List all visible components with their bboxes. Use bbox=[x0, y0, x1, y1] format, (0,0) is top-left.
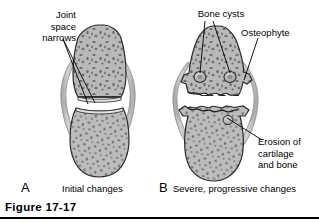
panel-a-upper-bone bbox=[73, 25, 126, 102]
panel-b-joint bbox=[173, 21, 262, 181]
annotation-osteophyte: Osteophyte bbox=[241, 27, 317, 39]
panel-a-letter: A bbox=[21, 180, 30, 195]
panel-a-joint bbox=[61, 25, 135, 177]
annotation-bone-cysts: Bone cysts bbox=[183, 8, 259, 20]
annotation-joint-space-narrows: Joint space narrows bbox=[14, 9, 76, 44]
annotation-erosion-of-cartilage-and-bone: Erosion of cartilage and bone bbox=[258, 136, 318, 171]
panel-b-letter: B bbox=[159, 180, 168, 195]
erosion-pit bbox=[223, 116, 233, 125]
figure-number-caption: Figure 17-17 bbox=[5, 201, 76, 213]
panel-b-caption: Severe, progressive changes bbox=[173, 183, 296, 194]
caption-divider-rule bbox=[0, 217, 319, 219]
panel-a-caption: Initial changes bbox=[62, 183, 123, 194]
panel-b-lower-bone bbox=[179, 106, 249, 181]
panel-a-lower-bone bbox=[70, 108, 129, 177]
figure-osteoarthritis-progression: Joint space narrows Bone cysts Osteophyt… bbox=[0, 0, 319, 223]
